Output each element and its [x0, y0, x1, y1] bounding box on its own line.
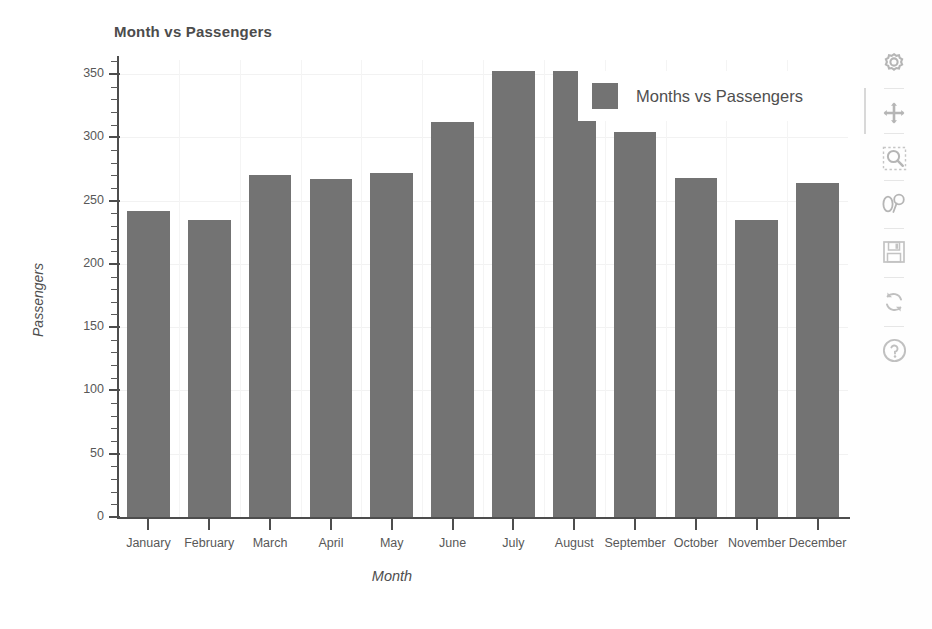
y-axis-minor-tick	[111, 239, 118, 240]
x-axis-tick	[756, 519, 758, 530]
y-axis-minor-tick	[111, 302, 118, 303]
bar	[370, 173, 413, 517]
vertical-gridline	[605, 60, 606, 517]
y-axis-minor-tick	[111, 87, 118, 88]
legend-item-label: Months vs Passengers	[636, 87, 803, 106]
bar	[127, 211, 170, 517]
vertical-gridline	[179, 60, 180, 517]
zoom-rect-icon[interactable]	[874, 138, 914, 178]
y-axis-minor-tick	[111, 188, 118, 189]
x-axis-tick-label: October	[674, 536, 718, 550]
y-axis-minor-tick	[111, 163, 118, 164]
bar	[614, 132, 657, 517]
y-axis-minor-tick	[111, 365, 118, 366]
x-axis-tick	[512, 519, 514, 530]
x-axis-title-text: Month	[372, 568, 412, 584]
y-axis-major-tick	[109, 389, 120, 391]
y-axis-minor-tick	[111, 112, 118, 113]
y-axis-minor-tick	[111, 492, 118, 493]
y-axis-major-tick	[109, 453, 120, 455]
y-axis-tick-label: 50	[64, 446, 104, 460]
y-axis-minor-tick	[111, 289, 118, 290]
x-axis-tick-label: July	[502, 536, 524, 550]
help-question-icon[interactable]	[874, 330, 914, 370]
y-axis-minor-tick	[111, 504, 118, 505]
x-axis-title: Month	[0, 568, 860, 584]
toolbar-separator-6	[884, 326, 904, 327]
toolbar-separator-5	[884, 277, 904, 278]
y-axis-tick-label: 350	[64, 66, 104, 80]
x-axis-tick	[208, 519, 210, 530]
y-axis-minor-tick	[111, 378, 118, 379]
y-axis-major-tick	[109, 326, 120, 328]
vertical-gridline	[361, 60, 362, 517]
x-axis-tick-label: December	[789, 536, 847, 550]
bar	[431, 122, 474, 517]
refresh-reset-icon[interactable]	[874, 282, 914, 322]
y-axis-minor-tick	[111, 251, 118, 252]
legend-color-swatch	[592, 83, 618, 109]
y-axis-minor-tick	[111, 175, 118, 176]
save-floppy-icon[interactable]	[874, 232, 914, 272]
x-axis-tick	[269, 519, 271, 530]
y-axis-minor-tick	[111, 416, 118, 417]
x-axis-tick-label: March	[253, 536, 288, 550]
bar	[188, 220, 231, 517]
y-axis-minor-tick	[111, 340, 118, 341]
bar	[310, 179, 353, 517]
y-axis-tick-label: 150	[64, 319, 104, 333]
bar	[492, 71, 535, 517]
bar	[553, 71, 596, 517]
y-axis-title: Passengers	[30, 240, 46, 360]
toolbar-separator-4	[884, 228, 904, 229]
toolbar-separator-2	[884, 133, 904, 134]
y-axis-major-tick	[109, 136, 120, 138]
y-axis-minor-tick	[111, 314, 118, 315]
x-axis-tick-label: April	[318, 536, 343, 550]
toolbar-rail	[864, 88, 866, 134]
y-axis-tick-label: 250	[64, 193, 104, 207]
y-axis-major-tick	[109, 73, 120, 75]
vertical-gridline	[483, 60, 484, 517]
y-axis-minor-tick	[111, 277, 118, 278]
chart-panel: Month vs Passengers 05010015020025030035…	[0, 0, 860, 629]
plot-area	[118, 60, 848, 517]
bar	[796, 183, 839, 517]
x-axis-tick-label: November	[728, 536, 786, 550]
x-axis-tick-label: May	[380, 536, 404, 550]
x-axis-tick-label: February	[184, 536, 234, 550]
y-axis-minor-tick	[111, 125, 118, 126]
vertical-gridline	[544, 60, 545, 517]
vertical-gridline	[240, 60, 241, 517]
y-axis-major-tick	[109, 516, 120, 518]
bar	[735, 220, 778, 517]
y-axis-minor-tick	[111, 150, 118, 151]
y-axis-tick-label: 300	[64, 129, 104, 143]
x-axis-tick-label: September	[605, 536, 666, 550]
x-axis-tick-label: June	[439, 536, 466, 550]
y-axis-major-tick	[109, 200, 120, 202]
y-axis-tick-label: 100	[64, 382, 104, 396]
bar	[249, 175, 292, 517]
x-axis-tick	[330, 519, 332, 530]
x-axis-tick	[573, 519, 575, 530]
x-axis-tick	[817, 519, 819, 530]
vertical-gridline	[787, 60, 788, 517]
subplot-config-icon[interactable]	[874, 184, 914, 224]
vertical-gridline	[726, 60, 727, 517]
move-pan-icon[interactable]	[874, 93, 914, 133]
y-axis-minor-tick	[111, 61, 118, 62]
toolbar-separator-3	[884, 180, 904, 181]
bar	[675, 178, 718, 517]
x-axis-tick	[452, 519, 454, 530]
y-axis-minor-tick	[111, 213, 118, 214]
chart-legend: Months vs Passengers	[578, 71, 850, 121]
y-axis-minor-tick	[111, 479, 118, 480]
vertical-gridline	[422, 60, 423, 517]
chart-toolbar	[860, 0, 932, 629]
y-axis-minor-tick	[111, 428, 118, 429]
x-axis-tick	[147, 519, 149, 530]
settings-gear-icon[interactable]	[874, 44, 914, 84]
toolbar-separator-1	[884, 88, 904, 89]
y-axis-minor-tick	[111, 99, 118, 100]
